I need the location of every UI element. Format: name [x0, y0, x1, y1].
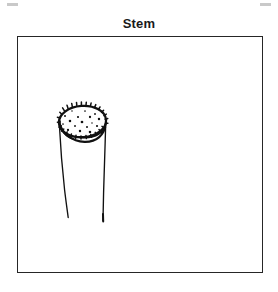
figure-container: Stem [0, 0, 278, 292]
stem-surface-dot [94, 113, 96, 115]
stem-surface-dot [74, 125, 76, 127]
stem-surface-dot [67, 129, 69, 131]
stem-surface-dot [89, 116, 91, 118]
stem-surface-dot [89, 131, 92, 134]
stem-surface-dot [98, 118, 100, 120]
stem-line-drawing [18, 37, 263, 273]
stem-right-edge-line [103, 127, 106, 221]
crop-mark-left-artifact [7, 3, 18, 6]
stem-surface-dot [62, 123, 64, 125]
stem-surface-dot [81, 121, 84, 124]
stem-surface-dot [71, 110, 73, 112]
figure-frame [17, 36, 263, 273]
stem-surface-dot [86, 126, 88, 128]
stem-surface-dot [79, 130, 81, 132]
stem-left-edge-line [60, 127, 69, 218]
stem-surface-dot [84, 110, 86, 112]
crop-mark-right-artifact [260, 3, 271, 6]
stem-surface-dot [64, 115, 66, 117]
stem-surface-dot [77, 116, 79, 118]
stem-surface-dot [96, 125, 98, 127]
stem-surface-dot [91, 122, 93, 124]
figure-caption: Stem [0, 16, 278, 31]
stem-illustration [57, 102, 108, 222]
stem-surface-dot [69, 120, 72, 123]
